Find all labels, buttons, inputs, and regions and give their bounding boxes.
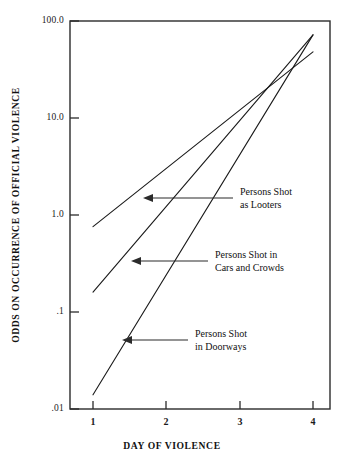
annotation-cars-crowds: Persons Shot in Cars and Crowds xyxy=(131,249,284,273)
series-line-cars-crowds xyxy=(93,35,313,292)
y-axis-ticks xyxy=(70,21,79,409)
annotation-cars-crowds-label-line2: Cars and Crowds xyxy=(215,262,284,273)
x-tick-label-4: 4 xyxy=(311,416,316,427)
x-axis-ticks xyxy=(93,401,313,409)
chart-svg: 100.0 10.0 1.0 .1 .01 1 2 3 4 DAY OF VIO… xyxy=(0,0,345,458)
annotation-looters-label-line1: Persons Shot xyxy=(240,186,292,197)
annotation-doorways-label-line2: in Doorways xyxy=(195,341,246,352)
x-tick-label-2: 2 xyxy=(164,416,169,427)
y-tick-label-0-1: .1 xyxy=(56,306,64,316)
annotation-looters-label-line2: as Looters xyxy=(240,199,281,210)
y-axis-title: ODDS ON OCCURRENCE OF OFFICIAL VIOLENCE xyxy=(10,87,21,343)
x-axis-title: DAY OF VIOLENCE xyxy=(123,440,220,451)
y-tick-label-10: 10.0 xyxy=(47,112,64,122)
chart-figure: 100.0 10.0 1.0 .1 .01 1 2 3 4 DAY OF VIO… xyxy=(0,0,345,458)
annotation-cars-crowds-arrow-icon xyxy=(131,257,141,265)
y-axis-tick-labels: 100.0 10.0 1.0 .1 .01 xyxy=(42,15,64,413)
y-tick-label-1: 1.0 xyxy=(52,209,65,219)
annotation-doorways: Persons Shot in Doorways xyxy=(122,328,247,352)
annotation-looters-arrow-icon xyxy=(143,194,153,202)
y-tick-label-100: 100.0 xyxy=(42,15,64,25)
annotation-doorways-label-line1: Persons Shot xyxy=(195,328,247,339)
annotation-cars-crowds-label-line1: Persons Shot in xyxy=(215,249,277,260)
x-tick-label-1: 1 xyxy=(91,416,96,427)
x-tick-label-3: 3 xyxy=(238,416,243,427)
y-tick-label-0-01: .01 xyxy=(52,403,65,413)
annotation-doorways-arrow-icon xyxy=(122,336,132,344)
annotation-looters: Persons Shot as Looters xyxy=(143,186,292,210)
x-axis-tick-labels: 1 2 3 4 xyxy=(91,416,316,427)
